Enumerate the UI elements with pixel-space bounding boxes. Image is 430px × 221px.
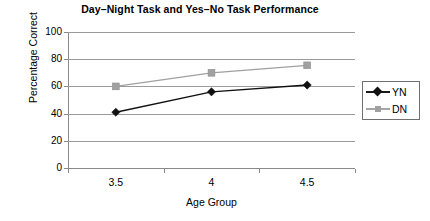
legend-item-dn: DN bbox=[366, 101, 420, 117]
square-marker-icon bbox=[375, 106, 381, 112]
legend-label-yn: YN bbox=[390, 87, 407, 98]
x-tick-mark bbox=[259, 169, 260, 173]
y-tick-mark bbox=[64, 59, 68, 60]
y-tick-mark bbox=[64, 86, 68, 87]
x-tick-mark bbox=[68, 169, 69, 173]
legend: YN DN bbox=[362, 81, 420, 120]
y-tick-mark bbox=[64, 32, 68, 33]
y-tick-mark bbox=[64, 168, 68, 169]
y-tick-mark bbox=[64, 141, 68, 142]
chart-figure: Day–Night Task and Yes–No Task Performan… bbox=[0, 0, 430, 221]
y-tick-mark bbox=[64, 114, 68, 115]
legend-label-dn: DN bbox=[390, 104, 407, 115]
x-tick-label: 4.5 bbox=[277, 176, 337, 188]
legend-item-yn: YN bbox=[366, 84, 420, 100]
x-axis-title: Age Group bbox=[68, 196, 355, 208]
legend-swatch-dn bbox=[366, 103, 390, 115]
diamond-marker-icon bbox=[373, 87, 383, 97]
x-tick-mark bbox=[355, 169, 356, 173]
x-tick-label: 3.5 bbox=[86, 176, 146, 188]
x-tick-label: 4 bbox=[182, 176, 242, 188]
x-tick-mark bbox=[164, 169, 165, 173]
legend-swatch-yn bbox=[366, 86, 390, 98]
